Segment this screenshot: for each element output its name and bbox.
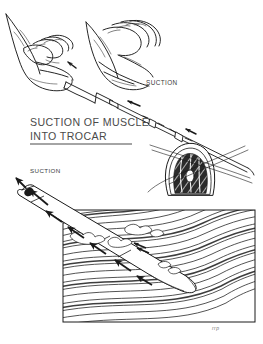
artist-signature: rrp [212,325,219,331]
illustration-figure: SUCTION SUCTION OF MUSCLE INTO TROCAR SU… [0,0,263,344]
suction-label-lower: SUCTION [30,167,61,174]
page-title-line2: INTO TROCAR [30,130,107,142]
page-title-line1: SUCTION OF MUSCLE [30,116,149,128]
suction-label-upper: SUCTION [146,79,178,86]
